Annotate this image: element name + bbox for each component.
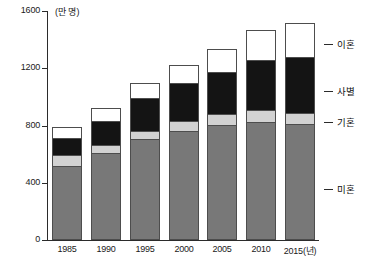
bar-segment-married <box>286 114 314 125</box>
legend-item-divorced[interactable]: 이혼 <box>324 37 355 51</box>
y-tick-label: 1200 <box>8 62 40 72</box>
y-tick-label: 400 <box>8 177 40 187</box>
legend-item-widowed[interactable]: 사별 <box>324 84 355 98</box>
bar-segment-divorced <box>131 84 159 99</box>
bar-segment-married <box>208 115 236 126</box>
bar-segment-widowed <box>247 60 275 111</box>
bar-1985[interactable] <box>52 127 82 240</box>
legend-leader-line <box>324 91 333 92</box>
legend-leader-line <box>324 122 333 123</box>
bar-segment-married <box>53 156 81 167</box>
legend-item-married[interactable]: 기혼 <box>324 115 355 129</box>
bar-segment-divorced <box>286 24 314 57</box>
bar-segment-divorced <box>92 109 120 121</box>
stacked-bar-chart: (만 명) 040080012001600 198519901995200020… <box>0 0 369 268</box>
y-tick-label: 1600 <box>8 5 40 15</box>
bar-segment-widowed <box>92 121 120 146</box>
bar-segment-married <box>131 132 159 140</box>
bar-segment-widowed <box>53 138 81 156</box>
bar-2010[interactable] <box>246 30 276 240</box>
bar-segment-widowed <box>170 83 198 121</box>
legend-label: 기혼 <box>337 115 355 129</box>
bar-segment-married <box>92 146 120 154</box>
bar-segment-single <box>92 154 120 239</box>
bar-segment-divorced <box>208 50 236 72</box>
bar-1990[interactable] <box>91 108 121 240</box>
legend-label: 이혼 <box>337 37 355 51</box>
bar-segment-widowed <box>208 72 236 115</box>
y-tick-label: 0 <box>8 234 40 244</box>
bar-segment-married <box>247 111 275 122</box>
bar-segment-single <box>53 167 81 239</box>
bar-2015[interactable] <box>285 23 315 240</box>
y-tick-mark <box>42 68 47 69</box>
x-tick-label-2015: 2015(년) <box>274 244 326 257</box>
legend-label: 사별 <box>337 84 355 98</box>
x-axis-line <box>47 240 319 241</box>
bar-segment-divorced <box>247 31 275 61</box>
bar-segment-divorced <box>170 66 198 84</box>
y-tick-mark <box>42 183 47 184</box>
bar-segment-single <box>247 123 275 239</box>
bar-segment-widowed <box>131 98 159 131</box>
y-tick-mark <box>42 126 47 127</box>
y-tick-mark <box>42 240 47 241</box>
bar-2000[interactable] <box>169 65 199 240</box>
bar-segment-single <box>170 132 198 239</box>
plot-area <box>48 11 319 240</box>
legend-label: 미혼 <box>337 182 355 196</box>
legend-item-single[interactable]: 미혼 <box>324 182 355 196</box>
bar-segment-single <box>131 140 159 239</box>
bar-segment-widowed <box>286 57 314 113</box>
bar-segment-divorced <box>53 128 81 138</box>
y-tick-label: 800 <box>8 120 40 130</box>
legend-leader-line <box>324 44 333 45</box>
bar-1995[interactable] <box>130 83 160 240</box>
bar-segment-married <box>170 122 198 133</box>
bar-segment-single <box>208 126 236 239</box>
bar-2005[interactable] <box>207 49 237 240</box>
legend-leader-line <box>324 189 333 190</box>
bar-segment-single <box>286 125 314 239</box>
y-tick-mark <box>42 11 47 12</box>
